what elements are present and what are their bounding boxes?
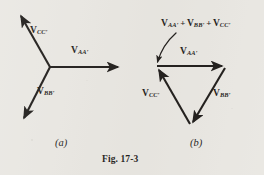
phasor-b-vcc-arrow (159, 70, 190, 124)
panel-b-label-vbb-subscript: BB′ (220, 91, 231, 98)
panel-b-sum-label: VAA′+VBB′+VCC′ (161, 19, 231, 29)
panel-a-label-vbb-subscript: BB′ (44, 89, 55, 96)
sum-term-1-subscript: AA′ (168, 21, 179, 28)
panel-b-label-vaa: VAA′ (180, 47, 198, 57)
sum-operator-1: + (179, 18, 187, 28)
figure-caption: Fig. 17-3 (102, 155, 138, 165)
panel-b-label-vcc: VCC′ (142, 89, 160, 99)
sum-operator-2: + (205, 18, 213, 28)
panel-b-label-vaa-subscript: AA′ (187, 49, 198, 56)
panel-a-label-vcc-subscript: CC′ (37, 28, 48, 35)
sum-term-3-subscript: CC′ (220, 21, 231, 28)
panel-b-label-vcc-subscript: CC′ (149, 91, 160, 98)
panel-a-label-vcc: VCC′ (30, 26, 48, 36)
panel-a-caption: (a) (55, 138, 67, 149)
figure-17-3: VCC′ VAA′ VBB′ (a) VAA′+VBB′+VCC′ VAA′ V… (0, 0, 264, 175)
phasor-a-vcc-arrow (21, 16, 50, 67)
panel-a-label-vaa-subscript: AA′ (78, 48, 89, 55)
panel-a-label-vbb: VBB′ (37, 87, 55, 97)
sum-term-2-subscript: BB′ (194, 21, 205, 28)
panel-b-label-vbb: VBB′ (213, 89, 231, 99)
sum-pointer-curved-arrow (158, 33, 177, 62)
panel-a-label-vaa: VAA′ (71, 46, 89, 56)
panel-b-caption: (b) (190, 138, 202, 149)
